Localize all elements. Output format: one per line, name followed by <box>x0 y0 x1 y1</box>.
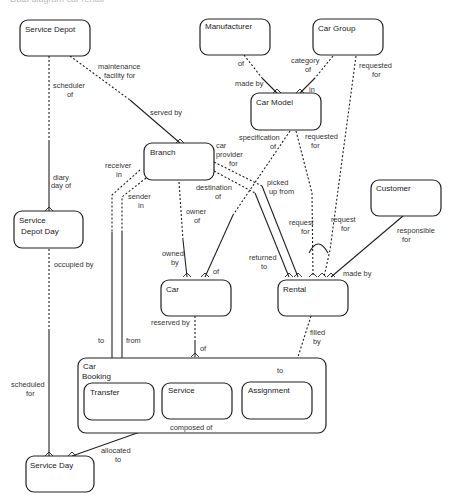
rel-scheduler-1: scheduler <box>53 81 86 90</box>
rel-owner-1: owner <box>186 207 207 216</box>
rel-request-a-1: request <box>289 218 314 227</box>
rel-scheduled-1: scheduled <box>11 380 45 389</box>
rel-maintenance-1: maintenance <box>98 62 140 71</box>
request-arc <box>309 244 328 253</box>
service-depot-day-label-2: Depot Day <box>21 227 59 236</box>
rel-request-a-2: for <box>301 227 310 236</box>
rel-to-transfer: to <box>98 336 104 345</box>
rel-owner-2: of <box>194 216 201 225</box>
rel-request-b-1: request <box>331 215 356 224</box>
service-depot-label: Service Depot <box>25 25 76 34</box>
rel-picked-up-1: picked <box>267 178 288 187</box>
rel-category-2: of <box>305 65 312 74</box>
rel-allocated-2: to <box>115 455 121 464</box>
rel-returned-1: returned <box>249 253 277 262</box>
rel-sender-2: in <box>138 201 144 210</box>
rel-made-by-model: made by <box>235 79 264 88</box>
service-day-label: Service Day <box>30 461 73 470</box>
rel-request-b-2: for <box>341 224 350 233</box>
link-model-rental-dashed <box>296 131 313 277</box>
service-depot-day-label-1: Service <box>19 216 46 225</box>
rel-specification-2: of <box>270 142 277 151</box>
rel-scheduler-2: of <box>67 90 74 99</box>
transfer-label: Transfer <box>90 388 120 397</box>
rel-requested-group-2: for <box>372 70 381 79</box>
assignment-label: Assignment <box>248 386 291 395</box>
rel-destination-2: of <box>215 192 222 201</box>
rel-receiver-2: in <box>116 170 122 179</box>
rel-reserved-by: reserved by <box>151 318 190 327</box>
rel-scheduled-2: for <box>26 389 35 398</box>
rel-allocated-1: allocated <box>101 446 131 455</box>
rel-returned-2: to <box>261 262 267 271</box>
rel-of-car: of <box>213 267 220 276</box>
link-branch-transfer-receiver-dashed <box>112 170 140 232</box>
rel-made-by-rental: made by <box>343 269 372 278</box>
rental-label: Rental <box>283 285 306 294</box>
rel-served-by: served by <box>150 108 182 117</box>
service-label: Service <box>168 386 195 395</box>
manufacturer-label: Manufacturer <box>205 22 252 31</box>
rel-responsible-1: responsible <box>397 226 435 235</box>
car-group-label: Car Group <box>318 24 356 33</box>
rel-requested-group-1: requested <box>359 61 392 70</box>
link-manufacturer-model-dashed <box>244 55 262 78</box>
rel-diary-2: day of <box>51 181 72 190</box>
rel-responsible-2: for <box>402 235 411 244</box>
car-label: Car <box>166 285 179 294</box>
rel-owned-1: owned <box>162 249 184 258</box>
rel-occupied-by: occupied by <box>54 260 94 269</box>
rel-requested-model-1: requested <box>305 132 338 141</box>
entity-relationship-diagram: Service Depot Manufacturer Car Group Car… <box>0 0 454 504</box>
branch-label: Branch <box>150 148 175 157</box>
rel-specification-1: specification <box>239 133 280 142</box>
rel-receiver-1: receiver <box>105 161 132 170</box>
car-booking-label-2: Booking <box>82 372 111 381</box>
rel-car-provider-3: for <box>229 159 238 168</box>
link-model-car-dashed <box>233 131 290 215</box>
rel-of-booking: of <box>200 344 207 353</box>
car-booking-label-1: Car <box>83 362 96 371</box>
rel-filled-2: by <box>313 337 321 346</box>
rel-picked-up-2: up from <box>269 187 294 196</box>
rel-category-1: category <box>291 56 320 65</box>
car-model-label: Car Model <box>256 98 293 107</box>
link-branch-rental-pickup-solid <box>262 186 298 277</box>
rel-owned-2: by <box>171 258 179 267</box>
rel-destination-1: destination <box>196 183 232 192</box>
rel-car-provider-1: car <box>216 141 227 150</box>
rel-maintenance-2: facility for <box>104 71 136 80</box>
link-branch-car-dashed <box>179 182 183 240</box>
rel-in: in <box>309 85 315 94</box>
rel-composed-of: composed of <box>170 423 213 432</box>
link-branch-car-solid <box>183 240 187 277</box>
rel-of-manufacturer: of <box>238 59 245 68</box>
rel-filled-1: filled <box>310 328 325 337</box>
link-group-rental-dashed <box>324 56 356 277</box>
customer-label: Customer <box>376 184 411 193</box>
rel-sender-1: sender <box>128 192 151 201</box>
rel-car-provider-2: provider <box>216 150 243 159</box>
link-rental-assignment-dashed <box>297 316 311 360</box>
rel-to-assignment: to <box>277 366 283 375</box>
rel-requested-model-2: for <box>311 141 320 150</box>
link-depot-branch-solid <box>130 100 180 143</box>
rel-from-transfer: from <box>126 336 141 345</box>
